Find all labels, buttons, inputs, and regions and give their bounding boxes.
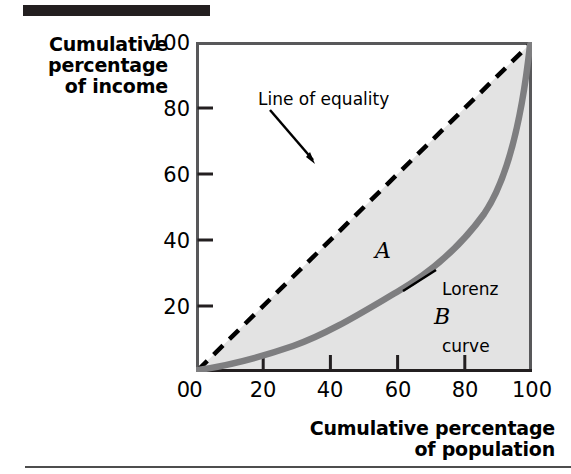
- y-tick-label-40: 40: [130, 229, 190, 253]
- y-tick-label-80: 80: [130, 97, 190, 121]
- x-axis-title-line-2: of population: [230, 439, 555, 460]
- y-axis-title-line-2: percentage: [8, 55, 168, 76]
- x-tick-label-100: 100: [502, 378, 562, 402]
- y-axis-title-line-3: of income: [8, 76, 168, 97]
- x-tick-label-20: 20: [233, 378, 293, 402]
- line-of-equality-label: Line of equality: [258, 90, 389, 109]
- bottom-rule-decoration: [25, 466, 571, 468]
- lorenz-curve-label-line-1: Lorenz: [442, 280, 498, 299]
- x-axis-title-line-1: Cumulative percentage: [230, 418, 555, 439]
- area-a-label: A: [375, 238, 391, 263]
- plot-area: Line of equality Lorenz curve A B: [196, 42, 532, 372]
- area-b-label: B: [434, 304, 450, 329]
- x-tick-label-40: 40: [300, 378, 360, 402]
- line-of-equality-leader: [270, 110, 313, 160]
- y-tick-label-100: 100: [130, 31, 190, 55]
- lorenz-curve-label: Lorenz curve: [442, 242, 498, 394]
- x-tick-label-0: 0: [166, 378, 226, 402]
- lorenz-curve-label-line-2: curve: [442, 337, 498, 356]
- x-axis-title: Cumulative percentage of population: [230, 418, 555, 460]
- top-rule-decoration: [23, 5, 210, 16]
- y-tick-label-20: 20: [130, 295, 190, 319]
- y-tick-label-60: 60: [130, 163, 190, 187]
- lorenz-curve-figure: Cumulative percentage of income 100 80 6…: [0, 0, 571, 474]
- x-tick-label-60: 60: [368, 378, 428, 402]
